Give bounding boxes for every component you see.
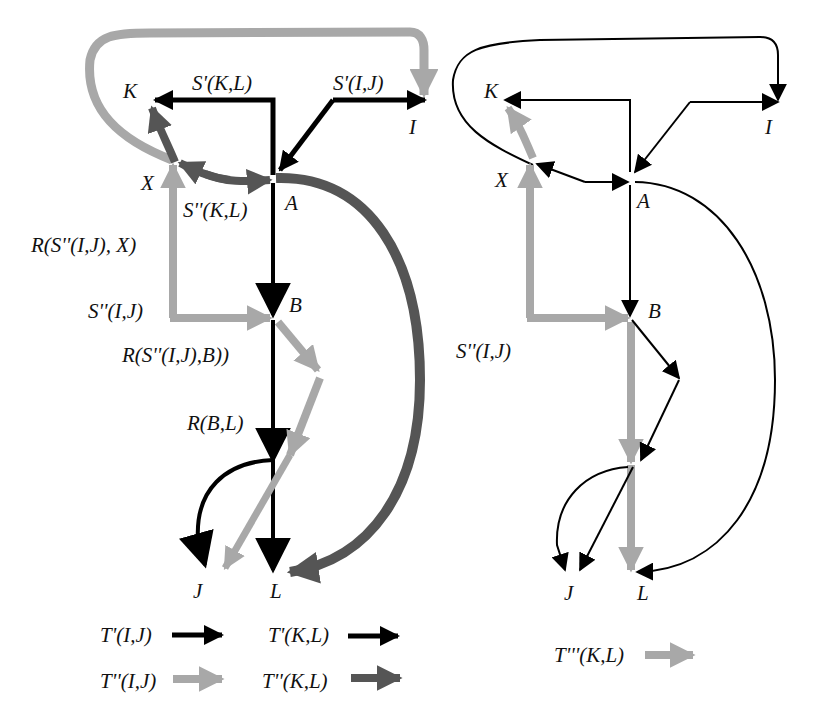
edge-t2ij-loop-x-to-i [90,32,424,160]
node-b: B [289,293,302,317]
edge-to-a [635,102,690,172]
label-s2-ij: S''(I,J) [456,339,511,363]
label-r-s2ij-x: R(S''(I,J), X) [30,233,136,257]
legend-left: T'(I,J) T'(K,L) T''(I,J) T''(K,L) [100,623,400,693]
edge-b-zig-1 [632,320,679,378]
edge-a-to-x [537,164,585,182]
node-l: L [269,579,282,603]
legend-label-t1-ij: T'(I,J) [100,623,152,647]
node-a: A [283,191,298,215]
left-diagram: K I X A B J L S'(K,L) S'(I,J) S''(K,L) R… [30,32,425,693]
label-s2-ij: S''(I,J) [88,299,143,323]
edge-t2ij-to-j [225,455,290,568]
right-diagram: K I X A B J L S''(I,J) T'''(K,L) [453,37,778,667]
node-b: B [648,299,661,323]
node-a: A [635,189,650,213]
label-r-s2ij-b: R(S''(I,J),B)) [121,343,229,367]
node-j: J [564,581,575,605]
edge-s1-ij-down [280,100,333,170]
node-k: K [122,79,138,103]
edge-r-s2ij-b-1 [278,322,318,370]
node-j: J [193,579,204,603]
label-s1-kl: S'(K,L) [192,71,252,95]
edge-b-zig-2 [641,380,679,460]
node-x: X [140,171,155,195]
legend-right: T'''(K,L) [554,643,693,667]
edge-r-s2ij-b-2 [290,378,320,455]
edge-s1-kl [155,100,273,175]
edge-a-to-l-curve [635,182,775,572]
node-i: I [764,115,773,139]
edge-s2-kl-to-a [205,174,270,181]
node-x: X [494,168,509,192]
label-s2-kl: S''(K,L) [183,198,247,222]
edge-node-to-j-straight [580,467,633,570]
node-l: L [636,581,649,605]
diagram-canvas: K I X A B J L S'(K,L) S'(I,J) S''(K,L) R… [0,0,817,724]
edge-t2kl-a-to-l [276,178,420,572]
node-i: I [408,115,417,139]
legend-label-t2-ij: T''(I,J) [100,669,156,693]
edge-x-to-k [508,108,533,158]
node-k: K [483,79,499,103]
legend-label-t2-kl: T''(K,L) [262,669,328,693]
label-s1-ij: S'(I,J) [333,71,384,95]
label-r-bl: R(B,L) [186,411,244,435]
legend-label-t3-kl: T'''(K,L) [554,643,624,667]
legend-label-t1-kl: T'(K,L) [268,623,329,647]
edge-node-to-j-curve [557,467,628,570]
